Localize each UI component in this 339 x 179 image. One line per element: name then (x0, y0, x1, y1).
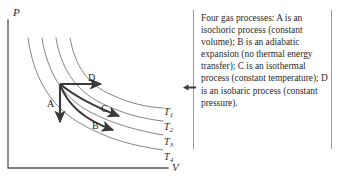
isotherm-curve-T1 (70, 38, 163, 108)
process-label-D: D (88, 72, 95, 83)
process-label-B: B (92, 120, 99, 131)
isotherm-label-T1-base: T (164, 106, 170, 117)
caption-left-rule (193, 10, 194, 149)
isotherm-label-T1: T1 (164, 106, 173, 119)
isotherm-label-T4-subscript: 4 (170, 156, 174, 164)
y-axis-label: P (13, 6, 20, 18)
caption-text: Four gas processes: A is an isochoric pr… (201, 12, 329, 109)
isotherm-label-T2: T2 (164, 121, 173, 134)
isotherm-label-T3-subscript: 3 (170, 141, 174, 149)
process-label-A: A (47, 98, 54, 109)
process-label-C: C (101, 103, 108, 114)
pv-diagram-panel: P V T1 T2 T3 T4 A B C D (0, 0, 186, 179)
isotherm-label-T4-base: T (164, 151, 170, 162)
isotherm-curves (28, 38, 163, 150)
caption-right-rule (331, 10, 332, 149)
isotherm-label-T2-subscript: 2 (170, 126, 174, 134)
isotherm-label-T4: T4 (164, 151, 173, 164)
isotherm-label-T2-base: T (164, 121, 170, 132)
caption-pointer-arrow-icon (183, 83, 197, 92)
caption-panel: Four gas processes: A is an isochoric pr… (193, 0, 339, 179)
isotherm-label-T3: T3 (164, 136, 173, 149)
isotherm-label-T1-subscript: 1 (170, 111, 174, 119)
pv-diagram-svg (0, 0, 186, 179)
isotherm-label-T3-base: T (164, 136, 170, 147)
axis-lines (8, 20, 168, 168)
isotherm-curve-T4 (28, 38, 163, 150)
axes-group (8, 20, 168, 168)
isotherm-curve-T2 (56, 38, 163, 121)
figure-root: P V T1 T2 T3 T4 A B C D Four gas process… (0, 0, 339, 179)
